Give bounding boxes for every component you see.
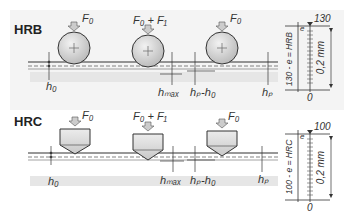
hrb-hmax-label: hₘₐₓ [158, 86, 179, 99]
hrb-ball-indenter-1 [58, 22, 90, 64]
hrb-scale-top-value: 130 [314, 13, 331, 24]
force-arrow-icon [142, 122, 154, 131]
force-arrow-icon [142, 25, 154, 34]
hrc-scale-e-label: e [300, 132, 304, 141]
hrc-force-label-1: F₀ [82, 109, 93, 121]
hrc-force-label-3: F₀ [228, 110, 239, 122]
hrc-force-label-2: F₀ + F₁ [133, 110, 167, 122]
hrc-cone-indenter-1 [60, 117, 90, 154]
hrb-scale-range-label: 0,2 mm [315, 41, 326, 74]
hrb-hp-h0-label: hₚ-h₀ [190, 86, 216, 99]
hrb-scale-e-label: e [300, 24, 304, 33]
force-arrow-icon [69, 117, 81, 126]
hrc-scale-top-value: 100 [314, 121, 331, 132]
hrc-scale-bottom-value: 0 [307, 202, 313, 213]
hrb-scale-formula: 130 - e = HRB [284, 32, 294, 86]
hrc-hp-h0-label: hₚ-h₀ [190, 174, 216, 187]
hrc-title: HRC [14, 114, 42, 129]
hrc-cone-indenter-2 [133, 122, 163, 160]
hrc-scale-formula: 100 - e = HRC [284, 140, 294, 195]
hrb-ball-indenter-2 [132, 25, 164, 67]
hrb-h0-label: h₀ [46, 80, 57, 92]
hrc-h0-label: h₀ [48, 175, 59, 187]
hrb-scale-bottom-value: 0 [307, 92, 313, 103]
hrc-hp-label: hₚ [258, 173, 269, 186]
hrc-surface-lines [28, 153, 278, 186]
hrb-force-label-3: F₀ [230, 12, 241, 24]
hrc-scale-range-label: 0,2 mm [315, 151, 326, 184]
hrc-cone-indenter-3 [207, 119, 237, 156]
hrc-hmax-label: hₘₐₓ [160, 174, 181, 187]
hrb-hp-label: hₚ [262, 86, 273, 99]
force-arrow-icon [216, 22, 228, 31]
hrb-force-label-2: F₀ + F₁ [133, 14, 167, 26]
hrb-force-label-1: F₀ [82, 12, 93, 24]
force-arrow-icon [68, 22, 80, 31]
hrb-ball-indenter-3 [206, 22, 238, 64]
force-arrow-icon [216, 119, 228, 128]
